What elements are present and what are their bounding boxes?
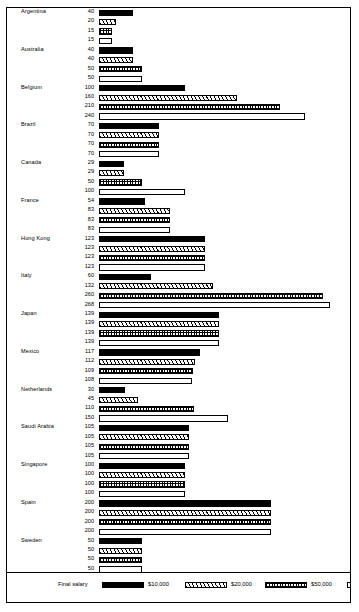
bar-value-label: 117 <box>67 347 94 356</box>
bar-empty-white <box>99 264 205 270</box>
bar-container <box>99 57 133 63</box>
chart-row: 50 <box>7 74 350 83</box>
bar-value-label: 132 <box>67 281 94 290</box>
chart-row: Mexico117 <box>7 348 350 357</box>
bar-fine-dotted <box>99 255 205 261</box>
bar-container <box>99 283 213 289</box>
bar-empty-white <box>99 151 159 157</box>
bar-fine-dotted <box>99 406 194 412</box>
chart-row: Saudi Arabia105 <box>7 423 350 432</box>
chart-row: 109 <box>7 367 350 376</box>
bar-solid-black <box>99 161 124 167</box>
bar-container <box>99 510 271 516</box>
chart-row: 50 <box>7 555 350 564</box>
bar-container <box>99 293 323 299</box>
chart-row: 150 <box>7 414 350 423</box>
bar-value-label: 105 <box>67 422 94 431</box>
category-label: Italy <box>21 271 32 280</box>
bar-container <box>99 19 116 25</box>
bar-empty-white <box>99 38 112 44</box>
bar-value-label: 70 <box>67 120 94 129</box>
legend-label: $10,000 <box>148 581 169 587</box>
bar-solid-black <box>99 236 205 242</box>
bar-container <box>99 227 170 233</box>
bar-solid-black <box>99 538 142 544</box>
bar-fine-dotted <box>99 66 142 72</box>
bar-value-label: 123 <box>67 234 94 243</box>
bar-solid-black <box>99 500 271 506</box>
chart-row: Belgium100 <box>7 84 350 93</box>
bar-solid-black <box>99 198 145 204</box>
bar-fine-dotted <box>99 293 323 299</box>
category-label: Netherlands <box>21 385 52 394</box>
bar-empty-white <box>99 189 185 195</box>
bar-value-label: 100 <box>67 488 94 497</box>
bar-container <box>99 104 280 110</box>
bar-diagonal-hatch <box>99 321 219 327</box>
bar-solid-black <box>99 10 133 16</box>
bar-container <box>99 85 185 91</box>
bar-value-label: 60 <box>67 271 94 280</box>
bar-empty-white <box>99 302 330 308</box>
chart-row: 40 <box>7 55 350 64</box>
bar-container <box>99 113 305 119</box>
bar-container <box>99 10 133 16</box>
bar-value-label: 50 <box>67 64 94 73</box>
bar-diagonal-hatch <box>99 57 133 63</box>
bar-empty-white <box>99 529 271 535</box>
bar-container <box>99 368 193 374</box>
chart-row: 112 <box>7 357 350 366</box>
bar-value-label: 45 <box>67 394 94 403</box>
bar-value-label: 70 <box>67 130 94 139</box>
bar-value-label: 109 <box>67 366 94 375</box>
bar-container <box>99 548 142 554</box>
bar-solid-black <box>99 349 200 355</box>
bar-container <box>99 472 185 478</box>
bar-value-label: 50 <box>67 545 94 554</box>
legend-label: $50,000 <box>311 581 332 587</box>
bar-container <box>99 179 142 185</box>
bar-empty-white <box>99 76 142 82</box>
bar-solid-black <box>99 425 189 431</box>
bar-container <box>99 161 124 167</box>
category-label: Argentina <box>21 8 46 16</box>
category-label: Belgium <box>21 83 42 92</box>
category-label: France <box>21 196 39 205</box>
bar-container <box>99 340 219 346</box>
chart-row: Singapore100 <box>7 461 350 470</box>
chart-legend: Final salary $10,000$20,000$50,000$100,0… <box>7 572 350 602</box>
bar-value-label: 139 <box>67 328 94 337</box>
bar-diagonal-hatch <box>99 95 237 101</box>
bar-value-label: 112 <box>67 356 94 365</box>
bar-container <box>99 359 195 365</box>
chart-row: 123 <box>7 244 350 253</box>
bar-fine-dotted <box>99 519 271 525</box>
bar-empty-white <box>99 378 192 384</box>
bar-value-label: 200 <box>67 517 94 526</box>
legend-swatch-diagonal-hatch <box>185 582 227 588</box>
chart-row: 50 <box>7 178 350 187</box>
chart-row: 240 <box>7 112 350 121</box>
chart-row: 200 <box>7 508 350 517</box>
chart-row: 100 <box>7 489 350 498</box>
category-label: Saudi Arabia <box>21 422 54 431</box>
chart-row: 70 <box>7 131 350 140</box>
chart-row: Brazil70 <box>7 121 350 130</box>
chart-row: Australia40 <box>7 46 350 55</box>
bar-value-label: 105 <box>67 432 94 441</box>
bar-value-label: 139 <box>67 318 94 327</box>
category-label: Sweden <box>21 536 42 545</box>
bar-solid-black <box>99 85 185 91</box>
bar-container <box>99 491 185 497</box>
bar-value-label: 15 <box>67 35 94 44</box>
category-label: Brazil <box>21 120 36 129</box>
bar-fine-dotted <box>99 28 112 34</box>
bar-value-label: 123 <box>67 262 94 271</box>
chart-row: 139 <box>7 319 350 328</box>
chart-row: 200 <box>7 527 350 536</box>
chart-row: 123 <box>7 263 350 272</box>
bar-value-label: 123 <box>67 252 94 261</box>
chart-row: 15 <box>7 27 350 36</box>
bar-fine-dotted <box>99 179 142 185</box>
chart-row: 29 <box>7 168 350 177</box>
